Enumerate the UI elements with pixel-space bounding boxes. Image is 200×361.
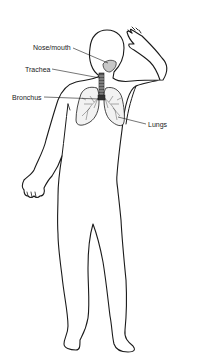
label-nose-mouth: Nose/mouth	[33, 44, 71, 52]
left-arm-inner-line	[62, 104, 68, 156]
leader-trachea	[52, 69, 100, 78]
left-lung	[76, 87, 99, 125]
label-lungs: Lungs	[148, 121, 167, 129]
respiratory-system-diagram	[0, 0, 200, 361]
label-trachea: Trachea	[25, 66, 50, 74]
trachea	[99, 73, 104, 97]
body-outline	[23, 29, 167, 352]
bronchus	[98, 95, 105, 100]
left-armpit-line	[68, 104, 70, 110]
label-bronchus: Bronchus	[12, 94, 42, 102]
right-lung	[104, 87, 124, 125]
